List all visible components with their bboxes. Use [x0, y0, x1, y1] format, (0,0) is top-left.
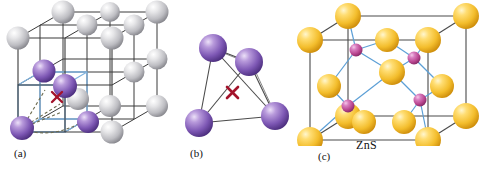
compound-label-zns: ZnS: [356, 138, 377, 153]
panel-b-tetrahedron: [168, 0, 293, 174]
caption-c: (c): [318, 150, 330, 162]
panel-c-zinc-blende: [292, 0, 480, 174]
panel-b-svg: [168, 0, 293, 146]
crystal-structure-figure: (a) (b) (c) ZnS: [0, 0, 480, 174]
tetrahedron-spheres: [185, 34, 289, 137]
panel-a-svg: [0, 0, 170, 146]
caption-b: (b): [190, 147, 203, 159]
panel-c-svg: [292, 0, 480, 146]
caption-a: (a): [14, 147, 26, 159]
tetrahedral-hole-marker-icon: [227, 87, 238, 98]
